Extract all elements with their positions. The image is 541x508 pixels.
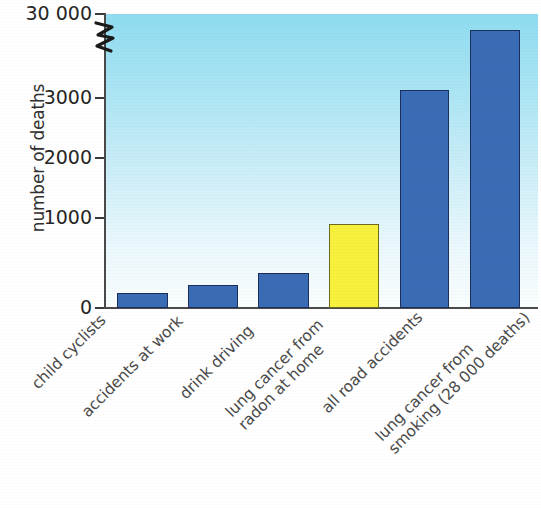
y-tick-label-1000: 1000 [44,208,92,227]
bar-child-cyclists [117,293,168,308]
bar-drink-driving [258,273,309,308]
y-tick-label-0: 0 [80,298,92,317]
y-tick-mark-0 [95,307,104,309]
y-tick-label-2000: 2000 [44,148,92,167]
axis-break-icon [92,20,118,54]
bar-accidents-at-work [188,285,238,308]
y-axis-tick-labels: 30 000 3000 2000 1000 0 [0,0,92,508]
bar-chart: number of deaths 30 000 3000 2000 1000 0… [0,0,541,508]
y-tick-mark-1000 [95,217,104,219]
y-tick-label-30000: 30 000 [26,4,92,23]
y-tick-mark-2000 [95,157,104,159]
bar-smoking [470,30,520,308]
y-tick-mark-30000 [95,13,104,15]
x-label-smoking: lung cancer from smoking (28 000 deaths) [372,296,534,458]
y-axis-line [104,13,106,309]
bar-radon-at-home [329,224,379,308]
y-tick-mark-3000 [95,97,104,99]
y-tick-label-3000: 3000 [44,88,92,107]
bar-all-road-accidents [400,90,449,308]
